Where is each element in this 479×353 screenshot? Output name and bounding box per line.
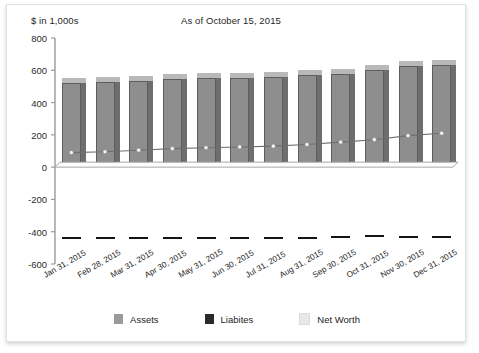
legend-net-worth[interactable]: Net Worth bbox=[299, 313, 360, 325]
legend-label: Assets bbox=[130, 314, 159, 325]
legend-swatch-icon bbox=[205, 314, 214, 324]
legend-swatch-icon bbox=[299, 313, 310, 325]
legend-label: Liabites bbox=[221, 314, 254, 325]
plot-area: 8006004002000-200-400-600 Jan 31, 2015Fe… bbox=[7, 5, 467, 343]
legend-label: Net Worth bbox=[317, 314, 360, 325]
legend-assets[interactable]: Assets bbox=[114, 314, 159, 325]
legend-liabilities[interactable]: Liabites bbox=[205, 314, 254, 325]
chart-card: $ in 1,000s As of October 15, 2015 80060… bbox=[6, 4, 466, 342]
legend-swatch-icon bbox=[114, 314, 123, 324]
x-axis-ticks: Jan 31, 2015Feb 28, 2015Mar 31, 2015Apr … bbox=[7, 5, 467, 343]
chart-legend: AssetsLiabitesNet Worth bbox=[7, 313, 467, 325]
